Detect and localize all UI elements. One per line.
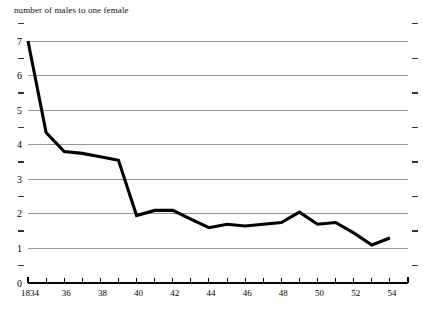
- y-axis-label-2: 2: [17, 208, 22, 219]
- x-axis-label-40: 40: [134, 288, 144, 298]
- x-axis-label-50: 50: [315, 288, 325, 298]
- x-axis-label-46: 46: [243, 288, 253, 298]
- y-axis-label-7: 7: [17, 36, 22, 47]
- y-axis-label-5: 5: [17, 105, 22, 116]
- y-ticks-right: [412, 24, 418, 266]
- y-axis-label-6: 6: [17, 70, 22, 81]
- y-axis-label-1: 1: [17, 243, 22, 254]
- gridlines-group: [28, 41, 408, 248]
- x-axis-label-36: 36: [62, 288, 72, 298]
- x-axis-label-38: 38: [98, 288, 108, 298]
- y-axis-label-3: 3: [17, 174, 22, 185]
- data-series-line: [28, 41, 390, 245]
- y-axis-label-0: 0: [17, 278, 22, 289]
- chart-container: number of males to one female 01234567 1…: [0, 0, 423, 319]
- x-axis-labels: 183436384042444648505254: [21, 288, 397, 298]
- y-axis-label-4: 4: [17, 139, 22, 150]
- x-axis-label-52: 52: [351, 288, 360, 298]
- x-axis-label-42: 42: [170, 288, 179, 298]
- x-axis-label-48: 48: [279, 288, 289, 298]
- line-chart-plot: 01234567 183436384042444648505254: [0, 0, 423, 319]
- x-axis-label-1834: 1834: [21, 288, 40, 298]
- x-axis-label-44: 44: [206, 288, 216, 298]
- x-axis-label-54: 54: [387, 288, 397, 298]
- axis-lines: [28, 277, 408, 283]
